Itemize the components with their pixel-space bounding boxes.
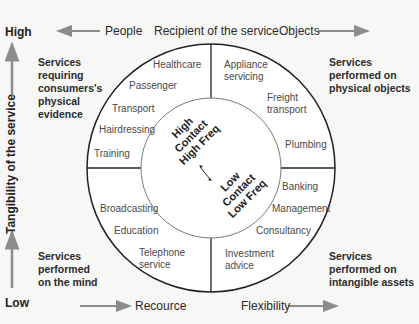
vertical-axis-label: Tangibility of the service bbox=[4, 94, 18, 234]
service-freight-transport: Freight transport bbox=[267, 92, 317, 116]
service-plumbing: Plumbing bbox=[285, 139, 327, 151]
service-education: Education bbox=[114, 225, 158, 237]
service-consultancy: Consultancy bbox=[256, 225, 311, 237]
service-passenger: Passenger bbox=[129, 80, 177, 92]
service-telephone-service: Telephone service bbox=[139, 247, 189, 271]
service-investment-advice: Investment advice bbox=[225, 248, 285, 272]
vertical-axis-high: High bbox=[5, 25, 32, 39]
quadrant-top-right: Services performed on physical objects bbox=[329, 56, 419, 95]
service-transport: Transport bbox=[112, 103, 154, 115]
vertical-axis-low: Low bbox=[5, 296, 29, 310]
top-axis-title: Recipient of the service bbox=[154, 24, 279, 38]
top-axis-people: People bbox=[105, 24, 142, 38]
quadrant-bottom-right: Services performed on intangible assets bbox=[329, 250, 419, 289]
inner-circle bbox=[141, 98, 281, 238]
service-management: Management bbox=[272, 203, 330, 215]
service-healthcare: Healthcare bbox=[153, 59, 201, 71]
service-appliance-servicing: Appliance servicing bbox=[224, 59, 284, 83]
service-training: Training bbox=[94, 148, 130, 160]
service-hairdressing: Hairdressing bbox=[99, 124, 155, 136]
quadrant-top-left: Services requiring consumers's physical … bbox=[38, 56, 118, 121]
service-banking: Banking bbox=[282, 181, 318, 193]
bottom-axis-recource: Recource bbox=[135, 299, 186, 313]
service-broadcasting: Broadcasting bbox=[100, 203, 158, 215]
bottom-axis-flexibility: Flexibility bbox=[241, 299, 290, 313]
quadrant-bottom-left: Services performed on the mind bbox=[38, 250, 98, 289]
top-axis-objects: Objects bbox=[279, 24, 320, 38]
